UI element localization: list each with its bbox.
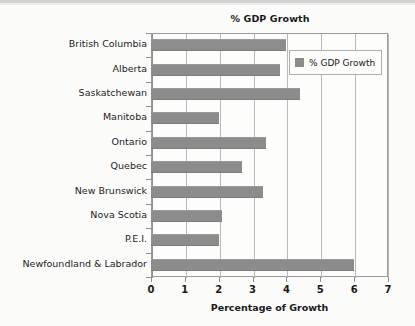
bar [151,39,286,51]
x-axis-tick-label: 7 [376,284,400,295]
x-axis-title: Percentage of Growth [151,302,388,313]
x-axis-tick [320,277,321,282]
y-axis-tick [146,179,151,180]
x-axis-tick [185,277,186,282]
chart-legend: % GDP Growth [289,50,382,75]
bar [151,186,263,198]
legend-swatch-icon [295,58,304,67]
bar [151,210,222,222]
y-axis-tick [146,131,151,132]
x-axis-tick [354,277,355,282]
y-axis-label: British Columbia [0,38,147,49]
bar [151,64,280,76]
y-axis-category-labels: British ColumbiaAlbertaSaskatchewanManit… [0,33,147,277]
y-axis-label: Alberta [0,63,147,74]
y-axis-label: Quebec [0,160,147,171]
y-axis-tick [146,228,151,229]
y-axis-label: Nova Scotia [0,209,147,220]
bar [151,112,219,124]
bar [151,137,266,149]
y-axis-tick [146,204,151,205]
scan-edge-band-light [0,3,415,5]
y-axis-label: New Brunswick [0,185,147,196]
bar [151,259,354,271]
x-axis-tick-label: 4 [274,284,298,295]
legend-label: % GDP Growth [309,58,375,68]
x-axis-tick [151,277,152,282]
x-axis-tick [219,277,220,282]
x-axis-tick [388,277,389,282]
x-axis-tick [286,277,287,282]
x-axis-tick-label: 6 [342,284,366,295]
y-axis-label: Saskatchewan [0,87,147,98]
bar [151,161,242,173]
chart-title: % GDP Growth [150,13,390,24]
x-axis-tick [253,277,254,282]
y-axis-tick [146,33,151,34]
y-axis-label: P.E.I. [0,233,147,244]
bar [151,234,219,246]
x-axis-tick-label: 3 [241,284,265,295]
y-axis-tick [146,253,151,254]
y-axis-tick [146,106,151,107]
y-axis-label: Ontario [0,136,147,147]
gridline-7 [388,34,389,278]
x-axis-tick-label: 0 [139,284,163,295]
y-axis-tick [146,155,151,156]
x-axis-tick-label: 2 [207,284,231,295]
x-axis-tick-label: 5 [308,284,332,295]
y-axis-label: Newfoundland & Labrador [0,258,147,269]
x-axis-tick-label: 1 [173,284,197,295]
bar [151,88,300,100]
y-axis-tick [146,57,151,58]
y-axis-tick [146,82,151,83]
chart-screenshot: % GDP Growth British ColumbiaAlbertaSask… [0,0,415,326]
y-axis-label: Manitoba [0,111,147,122]
